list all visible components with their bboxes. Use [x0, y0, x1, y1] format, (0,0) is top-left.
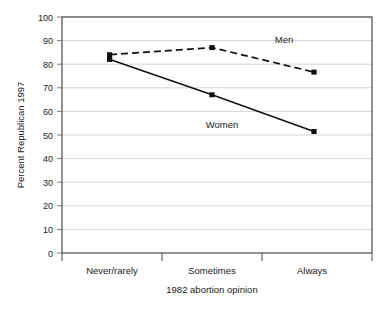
x-tick-label-never-rarely: Never/rarely	[86, 265, 138, 276]
marker-women-never-rarely	[107, 57, 112, 62]
line-chart: 100 90 80 70 60 50 40 30 20 10 0	[0, 0, 382, 313]
y-tick-label-10: 10	[43, 225, 53, 235]
marker-men-sometimes	[209, 45, 214, 50]
y-tick-label-80: 80	[43, 60, 53, 70]
y-tick-label-30: 30	[43, 178, 53, 188]
y-tick-label-0: 0	[48, 249, 53, 259]
y-tick-label-60: 60	[43, 107, 53, 117]
y-tick-label-100: 100	[38, 13, 53, 23]
x-axis-tick-labels: Never/rarely Sometimes Always	[86, 265, 327, 276]
x-tick-label-always: Always	[297, 265, 327, 276]
x-axis-ticks	[62, 253, 372, 261]
y-tick-label-70: 70	[43, 83, 53, 93]
x-axis-title: 1982 abortion opinion	[166, 284, 257, 295]
marker-women-sometimes	[209, 92, 214, 97]
y-axis-ticks	[57, 17, 62, 253]
series-annotation-men: Men	[275, 34, 293, 45]
marker-women-always	[311, 129, 316, 134]
y-tick-label-40: 40	[43, 154, 53, 164]
marker-men-never-rarely	[107, 52, 112, 57]
y-axis-title: Percent Republican 1997	[15, 82, 26, 189]
y-tick-label-90: 90	[43, 36, 53, 46]
y-tick-label-50: 50	[43, 131, 53, 141]
y-tick-label-20: 20	[43, 201, 53, 211]
y-axis-tick-labels: 100 90 80 70 60 50 40 30 20 10 0	[38, 13, 53, 259]
chart-container: 100 90 80 70 60 50 40 30 20 10 0	[0, 0, 382, 313]
series-annotation-women: Women	[206, 119, 239, 130]
x-tick-label-sometimes: Sometimes	[188, 265, 236, 276]
marker-men-always	[311, 70, 316, 75]
